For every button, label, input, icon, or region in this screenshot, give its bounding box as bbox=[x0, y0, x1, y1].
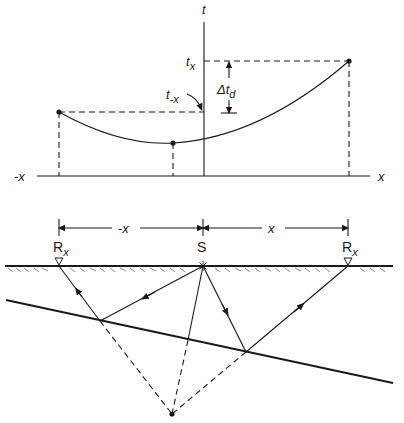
delta-td-label: Δtd bbox=[216, 82, 236, 100]
image-ray-normal bbox=[172, 340, 188, 414]
arrow-ray-down-left bbox=[144, 292, 155, 298]
receiver-right-icon bbox=[344, 258, 352, 265]
receiver-left-label: Rx bbox=[53, 239, 69, 258]
image-point bbox=[169, 411, 174, 416]
point-minimum bbox=[170, 140, 175, 145]
t-axis-label: t bbox=[202, 2, 207, 17]
point-posx bbox=[346, 58, 351, 63]
arrow-ray-up-left bbox=[77, 290, 82, 297]
t-negx-arrow bbox=[187, 94, 201, 108]
reflector-interface bbox=[6, 300, 393, 383]
dim-negx-label: -x bbox=[118, 221, 129, 236]
cross-section: -x x Rx S Rx bbox=[5, 219, 393, 417]
dim-posx-label: x bbox=[267, 221, 275, 236]
tx-label: tx bbox=[186, 54, 196, 72]
receiver-right-label: Rx bbox=[342, 239, 358, 258]
traveltime-plot: t x -x tx t-x Δtd bbox=[14, 2, 385, 184]
arrow-ray-up-right bbox=[294, 305, 302, 312]
arrow-ray-down-right bbox=[222, 304, 227, 313]
t-negx-label: t-x bbox=[166, 87, 179, 105]
image-ray-left bbox=[100, 321, 172, 414]
point-negx bbox=[56, 109, 61, 114]
seismic-reflection-diagram: t x -x tx t-x Δtd -x bbox=[0, 0, 404, 423]
source-label: S bbox=[197, 239, 206, 255]
ray-normal bbox=[188, 266, 203, 340]
x-axis-pos-label: x bbox=[377, 169, 385, 184]
x-axis-neg-label: -x bbox=[14, 169, 25, 184]
receiver-left-icon bbox=[55, 258, 63, 265]
